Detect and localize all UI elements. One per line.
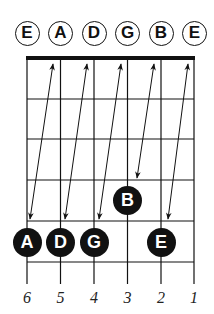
fret-note-string-6: A (13, 228, 42, 257)
string-number-3: 3 (118, 289, 138, 307)
nut (26, 56, 195, 60)
tuning-arrows (30, 64, 188, 219)
fretboard (0, 0, 214, 314)
tuning-diagram: E A D G B E (0, 0, 214, 314)
arrow-string-6-to-5 (30, 64, 53, 219)
string-number-1: 1 (184, 289, 204, 307)
string-number-4: 4 (84, 289, 104, 307)
string-number-6: 6 (17, 289, 37, 307)
string-number-5: 5 (51, 289, 71, 307)
arrow-string-3-to-2 (137, 64, 154, 178)
arrow-string-5-to-4 (65, 64, 87, 219)
fret-note-string-2: E (147, 228, 176, 257)
fret-note-string-3: B (113, 186, 142, 215)
fret-note-string-4: G (80, 228, 109, 257)
string-number-2: 2 (151, 289, 171, 307)
arrow-string-2-to-1 (168, 64, 188, 219)
fret-note-string-5: D (46, 228, 75, 257)
